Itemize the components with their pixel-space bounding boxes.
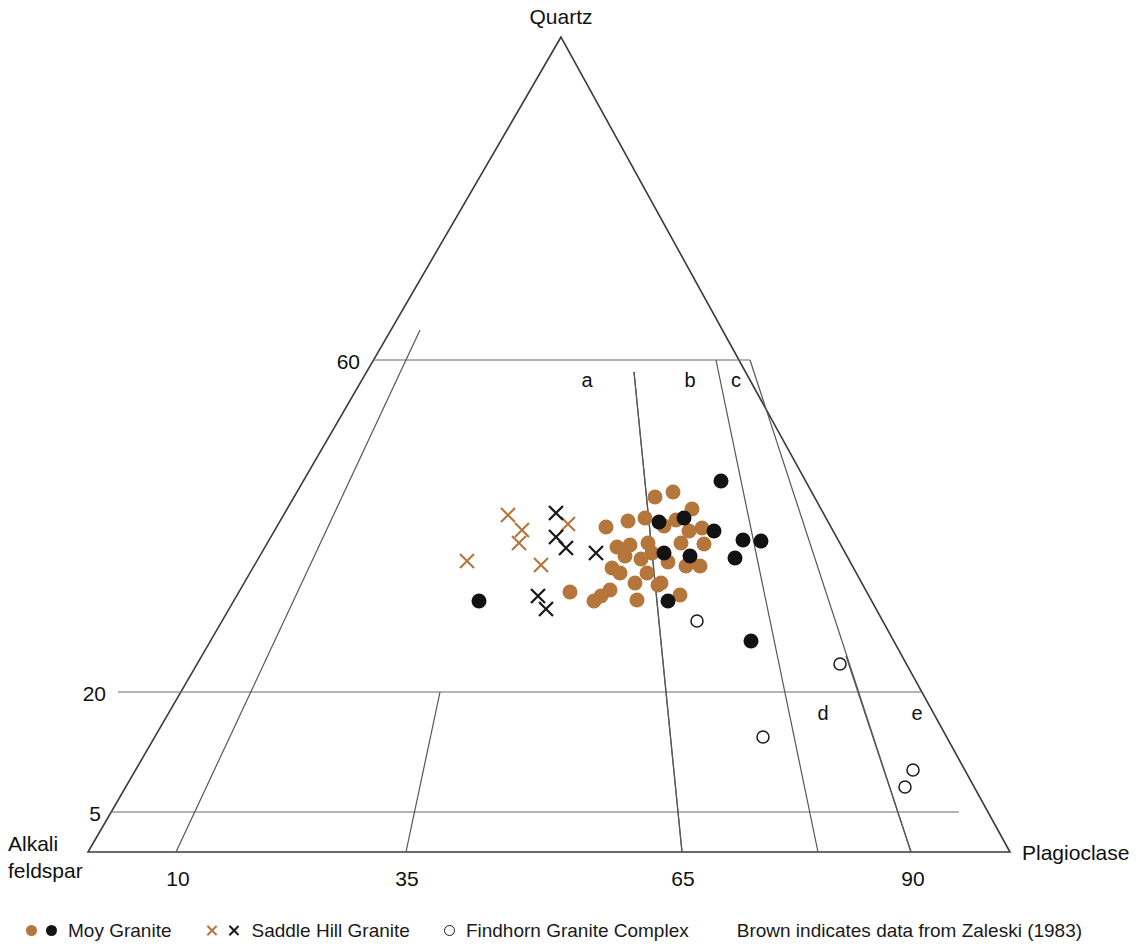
- data-point-layer: [460, 474, 919, 794]
- data-point-filled-circle: [697, 537, 712, 552]
- quartz-gridlines: [111, 360, 959, 812]
- legend-note-container: Brown indicates data from Zaleski (1983): [737, 921, 1082, 940]
- data-point-filled-circle: [610, 540, 625, 555]
- divline-plagioclase-35: [406, 692, 440, 852]
- series-moy-granite: [563, 485, 712, 609]
- data-point-filled-circle: [707, 524, 722, 539]
- tick-label-plagioclase-90: 90: [901, 867, 924, 890]
- data-point-filled-circle: [657, 546, 672, 561]
- data-point-x: [460, 554, 474, 568]
- data-point-filled-circle: [563, 585, 578, 600]
- field-label-b: b: [684, 369, 695, 391]
- data-point-filled-circle: [605, 561, 620, 576]
- data-point-filled-circle: [661, 594, 676, 609]
- legend-item-moy-granite: Moy Granite: [26, 921, 171, 940]
- series-findhorn-granite-complex: [691, 615, 919, 793]
- data-point-x: [589, 546, 603, 560]
- data-point-filled-circle: [640, 566, 655, 581]
- vertex-label-quartz: Quartz: [529, 5, 592, 28]
- data-point-filled-circle: [628, 576, 643, 591]
- field-label-e: e: [911, 702, 922, 724]
- boundary-b-c: [716, 360, 818, 852]
- brown-filled-circle-icon: [26, 925, 37, 936]
- data-point-open-circle: [691, 615, 703, 627]
- data-point-filled-circle: [587, 594, 602, 609]
- data-point-x: [515, 523, 529, 537]
- data-point-filled-circle: [744, 634, 759, 649]
- data-point-x: [539, 602, 553, 616]
- data-point-filled-circle: [754, 534, 769, 549]
- data-point-filled-circle: [654, 576, 669, 591]
- legend-label-saddle-hill-granite: Saddle Hill Granite: [251, 921, 409, 940]
- legend: Moy Granite Saddle Hill Granite Findhorn…: [0, 913, 1143, 947]
- data-point-filled-circle: [683, 549, 698, 564]
- qap-ternary-figure: Quartz Alkali feldspar Plagioclase 60 20…: [0, 0, 1143, 947]
- data-point-filled-circle: [677, 511, 692, 526]
- divline-plagioclase-10: [176, 330, 420, 852]
- data-point-open-circle: [899, 781, 911, 793]
- legend-note-zaleski: Brown indicates data from Zaleski (1983): [737, 921, 1082, 940]
- vertex-label-plagioclase: Plagioclase: [1022, 841, 1129, 864]
- field-boundary-lines: [634, 360, 911, 852]
- data-point-filled-circle: [666, 485, 681, 500]
- data-point-open-circle: [907, 764, 919, 776]
- tick-label-quartz-5: 5: [89, 802, 101, 825]
- data-point-x: [501, 508, 515, 522]
- legend-label-findhorn-granite-complex: Findhorn Granite Complex: [466, 921, 689, 940]
- brown-x-icon: [205, 924, 218, 937]
- tick-label-quartz-20: 20: [83, 682, 106, 705]
- tick-label-plagioclase-35: 35: [395, 867, 418, 890]
- legend-swatches-findhorn: [444, 925, 455, 936]
- legend-swatches-saddle-hill: [205, 924, 240, 937]
- tick-label-plagioclase-10: 10: [166, 867, 189, 890]
- boundary-a-b: [634, 372, 682, 852]
- vertex-label-alkali-feldspar-line2: feldspar: [8, 859, 83, 882]
- data-point-filled-circle: [648, 490, 663, 505]
- data-point-filled-circle: [728, 551, 743, 566]
- data-point-open-circle: [757, 731, 769, 743]
- field-label-a: a: [581, 369, 593, 391]
- legend-item-findhorn-granite-complex: Findhorn Granite Complex: [444, 921, 689, 940]
- legend-label-moy-granite: Moy Granite: [68, 921, 171, 940]
- data-point-filled-circle: [714, 474, 729, 489]
- data-point-x: [534, 558, 548, 572]
- field-label-c: c: [731, 369, 741, 391]
- data-point-x: [531, 589, 545, 603]
- open-circle-icon: [444, 925, 455, 936]
- legend-item-saddle-hill-granite: Saddle Hill Granite: [205, 921, 409, 940]
- data-point-filled-circle: [599, 520, 614, 535]
- black-filled-circle-icon: [46, 925, 57, 936]
- field-label-d: d: [817, 702, 828, 724]
- data-point-filled-circle: [652, 515, 667, 530]
- triangle-edges: [88, 37, 1010, 852]
- triangle-outline: [88, 37, 1010, 852]
- vertex-label-alkali-feldspar-line1: Alkali: [8, 832, 58, 855]
- data-point-filled-circle: [472, 594, 487, 609]
- data-point-x: [559, 541, 573, 555]
- data-point-filled-circle: [621, 514, 636, 529]
- data-point-x: [512, 536, 526, 550]
- black-x-icon: [227, 924, 240, 937]
- data-point-x: [549, 506, 563, 520]
- boundary-c-edge: [750, 360, 911, 852]
- data-point-filled-circle: [638, 511, 653, 526]
- data-point-filled-circle: [682, 524, 697, 539]
- legend-swatches-moy: [26, 925, 57, 936]
- legend-row: Moy Granite Saddle Hill Granite Findhorn…: [0, 913, 1143, 947]
- data-point-filled-circle: [736, 533, 751, 548]
- data-point-filled-circle: [630, 593, 645, 608]
- tick-label-plagioclase-65: 65: [671, 867, 694, 890]
- data-point-open-circle: [834, 658, 846, 670]
- ternary-plot-svg: Quartz Alkali feldspar Plagioclase 60 20…: [0, 0, 1143, 947]
- tick-label-quartz-60: 60: [337, 350, 360, 373]
